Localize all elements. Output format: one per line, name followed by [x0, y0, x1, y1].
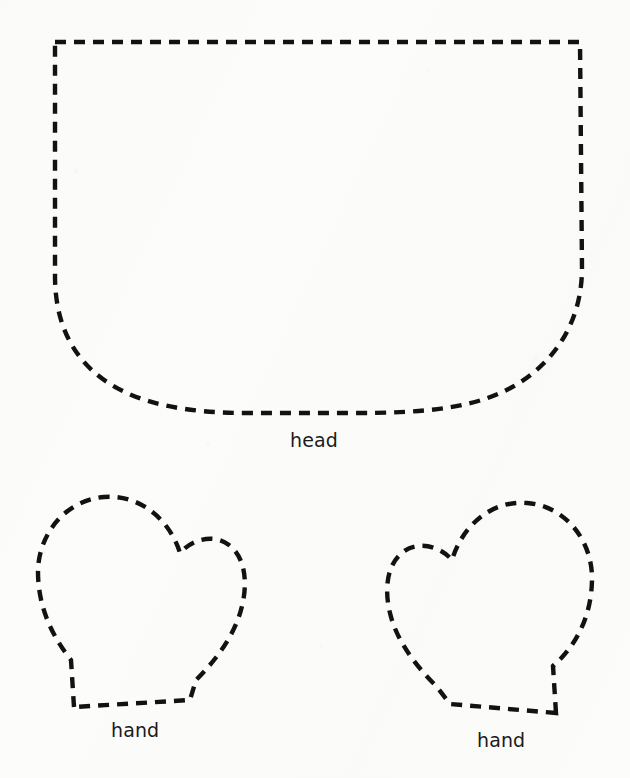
hand-left-piece-label: hand — [111, 720, 159, 740]
pattern-canvas — [0, 0, 630, 778]
head-cut-outline — [55, 42, 582, 413]
head-piece-label: head — [290, 430, 338, 450]
hand-right-piece-label: hand — [477, 730, 525, 750]
hand-left-cut-outline — [38, 497, 245, 707]
hand-right-cut-outline — [387, 503, 592, 713]
pattern-sheet: head hand hand — [0, 0, 630, 778]
